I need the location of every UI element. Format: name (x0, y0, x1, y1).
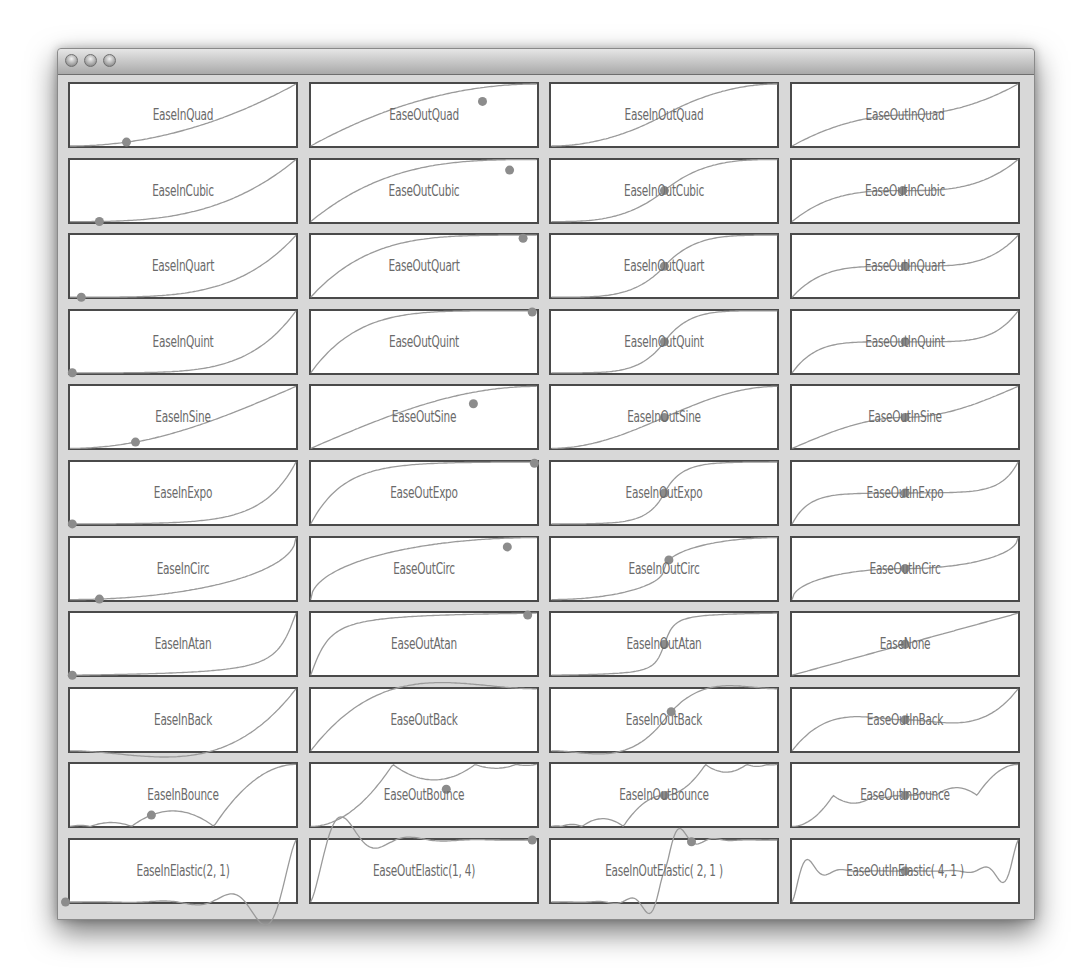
easing-label: EaseOutInQuad (817, 106, 993, 124)
easing-label: EaseInCirc (95, 560, 271, 578)
easing-label: EaseOutAtan (336, 635, 512, 653)
easing-panel: EaseOutInBack (790, 687, 1020, 753)
easing-label: EaseInOutQuart (576, 257, 752, 275)
easing-label: EaseInSine (95, 408, 271, 426)
easing-panel: EaseInQuint (68, 309, 298, 375)
easing-panel: EaseInOutAtan (549, 611, 779, 677)
easing-label: EaseInOutExpo (576, 484, 752, 502)
easing-panel: EaseInBack (68, 687, 298, 753)
easing-panel: EaseOutInBounce (790, 762, 1020, 828)
easing-label: EaseOutInBounce (817, 786, 993, 804)
easing-label: EaseInOutBack (576, 711, 752, 729)
easing-panel: EaseInOutQuad (549, 82, 779, 148)
easing-panel: EaseInOutCirc (549, 536, 779, 602)
easing-label: EaseInExpo (95, 484, 271, 502)
easing-panel: EaseOutInQuint (790, 309, 1020, 375)
easing-label: EaseNone (817, 635, 993, 653)
easing-label: EaseOutInQuart (817, 257, 993, 275)
easing-panel: EaseOutBack (309, 687, 539, 753)
title-bar[interactable] (58, 49, 1034, 75)
easing-panel: EaseOutQuart (309, 233, 539, 299)
easing-panel: EaseOutInCirc (790, 536, 1020, 602)
easing-panel: EaseOutInExpo (790, 460, 1020, 526)
easing-panel: EaseOutSine (309, 384, 539, 450)
easing-label: EaseInBack (95, 711, 271, 729)
easing-panel: EaseInCubic (68, 158, 298, 224)
easing-label: EaseInOutQuint (576, 333, 752, 351)
easing-label: EaseOutSine (336, 408, 512, 426)
easing-label: EaseOutExpo (336, 484, 512, 502)
easing-label: EaseOutInSine (817, 408, 993, 426)
easing-label: EaseInQuint (95, 333, 271, 351)
easing-panel: EaseOutInQuart (790, 233, 1020, 299)
easing-label: EaseInCubic (95, 182, 271, 200)
easing-label: EaseInBounce (95, 786, 271, 804)
easing-label: EaseInOutQuad (576, 106, 752, 124)
easing-panel: EaseOutBounce (309, 762, 539, 828)
easing-label: EaseInQuad (95, 106, 271, 124)
easing-panel: EaseInOutQuart (549, 233, 779, 299)
easing-panel: EaseInQuart (68, 233, 298, 299)
easing-panel: EaseOutElastic(1, 4) (309, 838, 539, 904)
easing-label: EaseInQuart (95, 257, 271, 275)
easing-panel: EaseInAtan (68, 611, 298, 677)
easing-panel: EaseOutInQuad (790, 82, 1020, 148)
easing-label: EaseOutInCirc (817, 560, 993, 578)
easing-label: EaseOutQuad (336, 106, 512, 124)
zoom-button[interactable] (103, 54, 116, 67)
easing-label: EaseOutQuart (336, 257, 512, 275)
easing-label: EaseInElastic(2, 1) (95, 862, 271, 880)
easing-panel: EaseInOutSine (549, 384, 779, 450)
easing-label: EaseInOutElastic( 2, 1 ) (576, 862, 752, 880)
easing-panel: EaseOutInCubic (790, 158, 1020, 224)
easing-panel: EaseOutQuad (309, 82, 539, 148)
easing-label: EaseOutBack (336, 711, 512, 729)
easing-label: EaseInOutBounce (576, 786, 752, 804)
easing-label: EaseOutCirc (336, 560, 512, 578)
easing-label: EaseInOutCubic (576, 182, 752, 200)
easing-panel: EaseOutAtan (309, 611, 539, 677)
easing-panel: EaseInOutCubic (549, 158, 779, 224)
easing-panel: EaseOutQuint (309, 309, 539, 375)
easing-label: EaseInAtan (95, 635, 271, 653)
easing-label: EaseOutQuint (336, 333, 512, 351)
easing-panel: EaseOutInElastic( 4, 1 ) (790, 838, 1020, 904)
easing-panel: EaseInQuad (68, 82, 298, 148)
easing-panel: EaseInSine (68, 384, 298, 450)
easing-label: EaseOutInElastic( 4, 1 ) (817, 862, 993, 880)
easing-label: EaseOutBounce (336, 786, 512, 804)
easing-label: EaseInOutSine (576, 408, 752, 426)
easing-panel: EaseOutCubic (309, 158, 539, 224)
easing-panel: EaseInExpo (68, 460, 298, 526)
easing-panel: EaseInCirc (68, 536, 298, 602)
easing-panel: EaseInOutBack (549, 687, 779, 753)
easing-label: EaseOutInExpo (817, 484, 993, 502)
easing-panel: EaseOutExpo (309, 460, 539, 526)
easing-panel: EaseInOutBounce (549, 762, 779, 828)
easing-panel: EaseInBounce (68, 762, 298, 828)
easing-label: EaseOutInCubic (817, 182, 993, 200)
easing-panel: EaseInOutExpo (549, 460, 779, 526)
easing-panel: EaseInElastic(2, 1) (68, 838, 298, 904)
close-button[interactable] (65, 54, 78, 67)
easing-panel: EaseOutCirc (309, 536, 539, 602)
easing-panel: EaseInOutQuint (549, 309, 779, 375)
easing-panel: EaseOutInSine (790, 384, 1020, 450)
easing-panel: EaseInOutElastic( 2, 1 ) (549, 838, 779, 904)
easing-label: EaseOutInQuint (817, 333, 993, 351)
easing-panel: EaseNone (790, 611, 1020, 677)
easing-label: EaseOutInBack (817, 711, 993, 729)
minimize-button[interactable] (84, 54, 97, 67)
easing-label: EaseOutElastic(1, 4) (336, 862, 512, 880)
easing-label: EaseOutCubic (336, 182, 512, 200)
easing-label: EaseInOutAtan (576, 635, 752, 653)
easing-label: EaseInOutCirc (576, 560, 752, 578)
